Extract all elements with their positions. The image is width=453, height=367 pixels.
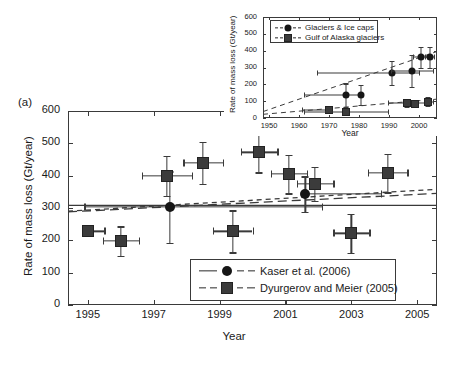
error-bar-cap [200, 184, 207, 185]
legend-entry-glaciers: Glaciers & Ice caps [275, 23, 374, 32]
error-bar-cap [304, 93, 305, 98]
error-bar-cap [368, 170, 369, 177]
x-tick [154, 300, 155, 305]
x-tick [419, 17, 420, 20]
square-data-marker [309, 178, 321, 190]
error-bar-cap [312, 167, 319, 168]
legend-sample-glaciers [275, 23, 301, 32]
x-tick-label: 2003 [339, 308, 363, 320]
square-data-marker [82, 225, 94, 237]
error-bar-cap [229, 210, 236, 211]
square-data-marker [411, 100, 419, 108]
x-tick [299, 115, 300, 118]
error-bar-cap [229, 252, 236, 253]
square-marker-icon [284, 34, 292, 42]
error-bar-cap [163, 196, 170, 197]
error-bar-cap [390, 85, 395, 86]
x-error-bar [304, 95, 361, 96]
error-bar-cap [433, 69, 434, 74]
y-tick [263, 34, 266, 35]
y-tick [68, 240, 73, 241]
error-bar-cap [213, 228, 214, 235]
error-bar-cap [183, 159, 184, 166]
x-tick [269, 115, 270, 118]
y-tick [263, 51, 266, 52]
error-bar-cap [333, 230, 334, 237]
square-data-marker [342, 108, 350, 116]
error-bar-cap [384, 192, 391, 193]
error-bar-cap [381, 191, 382, 198]
square-data-marker [382, 167, 394, 179]
error-bar-cap [253, 228, 254, 235]
error-bar-cap [413, 55, 414, 60]
error-bar-cap [117, 226, 124, 227]
x-tick-label: 2005 [405, 308, 429, 320]
inset-y-axis-title: Rate of mass loss (Gt/year) [228, 15, 237, 112]
error-bar-cap [358, 85, 363, 86]
circle-data-marker [417, 54, 424, 61]
error-bar-cap [304, 110, 305, 115]
error-bar-cap [343, 83, 348, 84]
y-tick [434, 34, 437, 35]
y-tick-label: 600 [16, 103, 60, 115]
error-bar-cap [348, 214, 355, 215]
error-bar-cap [302, 212, 309, 213]
x-tick-label: 1970 [321, 121, 338, 130]
y-tick [434, 68, 437, 69]
square-data-marker [197, 157, 209, 169]
square-data-marker [161, 170, 173, 182]
error-bar-cap [317, 70, 318, 75]
inset-legend: Glaciers & Ice caps Gulf of Alaska glaci… [270, 20, 378, 43]
y-tick [263, 17, 266, 18]
error-bar-cap [192, 172, 193, 179]
error-bar-cap [427, 68, 432, 69]
y-tick [432, 143, 437, 144]
circle-marker-icon [285, 24, 292, 31]
error-bar-cap [312, 201, 319, 202]
error-bar-cap [297, 180, 298, 187]
square-data-marker [325, 106, 333, 114]
x-tick [389, 17, 390, 20]
x-tick [419, 115, 420, 118]
x-tick [389, 115, 390, 118]
x-tick [88, 300, 89, 305]
error-bar-cap [390, 61, 395, 62]
y-tick [68, 176, 73, 177]
y-tick [68, 111, 73, 112]
error-bar-cap [418, 47, 423, 48]
error-bar-cap [84, 204, 85, 211]
error-bar-cap [384, 154, 391, 155]
circle-marker-icon [222, 266, 232, 276]
error-bar-cap [167, 243, 174, 244]
y-tick [432, 273, 437, 274]
y-tick [263, 84, 266, 85]
x-tick [417, 300, 418, 305]
square-data-marker [424, 98, 432, 106]
y-tick [432, 240, 437, 241]
circle-data-marker [426, 54, 433, 61]
y-tick [68, 143, 73, 144]
error-bar-cap [223, 159, 224, 166]
x-tick-label: 1999 [207, 308, 231, 320]
square-data-marker [115, 235, 127, 247]
legend-sample-alaska [275, 33, 301, 42]
legend-label-alaska: Gulf of Alaska glaciers [305, 33, 384, 42]
y-tick [434, 101, 437, 102]
error-bar-cap [348, 253, 355, 254]
error-bar-cap [285, 193, 292, 194]
x-tick-label: 2001 [273, 308, 297, 320]
error-bar-cap [277, 149, 278, 156]
legend-entry-alaska: Gulf of Alaska glaciers [275, 33, 384, 42]
x-tick [329, 115, 330, 118]
legend-label-dyurgerov: Dyurgerov and Meier (2005) [260, 282, 398, 294]
error-bar-cap [163, 156, 170, 157]
x-error-bar [305, 193, 381, 194]
error-bar-cap [433, 99, 434, 104]
legend-entry-dyurgerov: Dyurgerov and Meier (2005) [199, 282, 398, 294]
x-error-bar [84, 206, 321, 207]
error-bar-cap [256, 172, 263, 173]
square-data-marker [283, 168, 295, 180]
circle-data-marker [357, 91, 364, 98]
square-data-marker [227, 225, 239, 237]
error-bar-cap [426, 106, 431, 107]
